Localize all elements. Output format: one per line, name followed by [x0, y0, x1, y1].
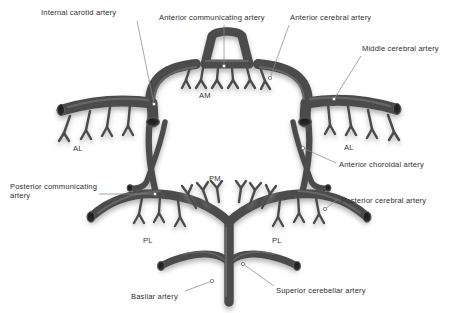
label-middle-cerebral-artery: Middle cerebral artery — [362, 44, 439, 53]
circle-of-willis-figure: Internal carotid artery Anterior communi… — [0, 0, 458, 313]
label-anterior-cerebral-artery: Anterior cerebral artery — [290, 13, 371, 22]
label-anterior-choroidal-artery: Anterior choroidal artery — [339, 160, 424, 169]
label-pm-posteromedial-central-arteries: PM — [209, 174, 221, 183]
label-am-anteromedial-central-arteries: AM — [199, 91, 211, 100]
label-posterior-communicating-artery: Posterior communicating artery — [10, 182, 97, 201]
label-internal-carotid-artery: Internal carotid artery — [41, 8, 116, 17]
label-posterior-cerebral-artery: Posterior cerebral artery — [341, 196, 426, 205]
label-pl-right-posterolateral-central-arteries: PL — [272, 236, 282, 245]
label-pl-left-posterolateral-central-arteries: PL — [143, 236, 153, 245]
label-superior-cerebellar-artery: Superior cerebellar artery — [276, 286, 366, 295]
label-al-left-anterolateral-central-arteries: AL — [73, 144, 83, 153]
label-al-right-anterolateral-central-arteries: AL — [344, 143, 354, 152]
label-anterior-communicating-artery: Anterior communicating artery — [159, 13, 265, 22]
label-basilar-artery: Basilar artery — [131, 292, 178, 301]
